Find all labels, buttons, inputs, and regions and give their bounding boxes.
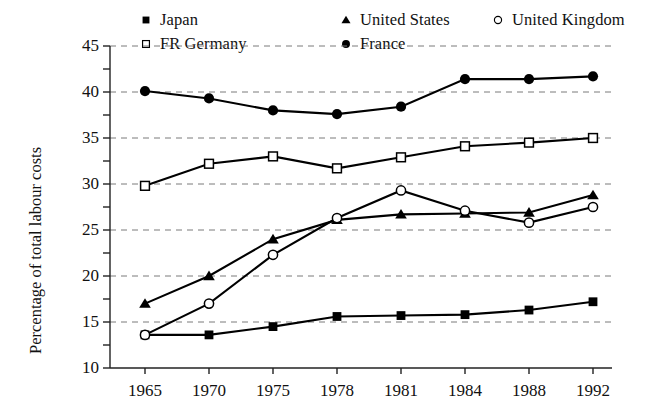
data-point: [524, 74, 534, 84]
data-point: [460, 206, 469, 215]
data-point: [269, 322, 278, 331]
data-point: [268, 105, 278, 115]
x-tick-label: 1978: [320, 382, 354, 399]
y-tick-label: 10: [82, 359, 99, 376]
data-point: [140, 330, 149, 339]
chart-canvas: [0, 0, 650, 418]
x-tick-label: 1988: [512, 382, 546, 399]
data-point: [396, 102, 406, 112]
data-point: [332, 109, 342, 119]
chart-figure: JapanUnited StatesUnited KingdomFR Germa…: [0, 0, 650, 418]
plot-area: [0, 0, 650, 418]
x-tick-label: 1975: [256, 382, 290, 399]
data-point: [396, 186, 405, 195]
y-tick-label: 45: [82, 37, 99, 54]
x-tick-label: 1970: [192, 382, 226, 399]
x-tick-label: 1965: [128, 382, 162, 399]
data-point: [204, 93, 214, 103]
markers-france: [140, 71, 598, 119]
data-point: [203, 271, 215, 281]
data-point: [525, 306, 534, 315]
data-point: [588, 202, 597, 211]
y-tick-label: 35: [82, 129, 99, 146]
data-point: [587, 190, 599, 200]
data-point: [333, 312, 342, 321]
data-point: [268, 250, 277, 259]
x-tick-label: 1992: [576, 382, 610, 399]
data-point: [332, 213, 341, 222]
data-point: [589, 134, 598, 143]
x-tick-label: 1984: [448, 382, 482, 399]
y-tick-label: 40: [82, 83, 99, 100]
data-point: [204, 299, 213, 308]
data-point: [525, 138, 534, 147]
series-line: [145, 195, 593, 304]
data-point: [269, 152, 278, 161]
data-point: [205, 330, 214, 339]
data-point: [461, 142, 470, 151]
data-point: [461, 310, 470, 319]
data-point: [140, 86, 150, 96]
data-point: [141, 181, 150, 190]
data-point: [397, 311, 406, 320]
markers-united-states: [139, 190, 599, 308]
series-united-states: [145, 195, 593, 304]
data-point: [524, 218, 533, 227]
data-point: [333, 164, 342, 173]
data-point: [460, 74, 470, 84]
data-point: [397, 153, 406, 162]
x-tick-label: 1981: [384, 382, 418, 399]
data-point: [589, 297, 598, 306]
y-axis-label: Percentage of total labour costs: [26, 147, 46, 354]
y-tick-label: 25: [82, 221, 99, 238]
data-point: [139, 298, 151, 308]
y-tick-label: 15: [82, 313, 99, 330]
data-point: [205, 159, 214, 168]
y-tick-label: 30: [82, 175, 99, 192]
data-point: [588, 71, 598, 81]
y-tick-label: 20: [82, 267, 99, 284]
